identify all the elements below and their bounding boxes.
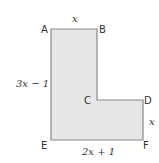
dimension-ae: 3x − 1 [16, 78, 49, 89]
dimension-df: x [149, 116, 155, 127]
dimension-ef: 2x + 1 [81, 146, 115, 157]
vertex-label-d: D [144, 95, 152, 106]
vertex-label-f: F [143, 140, 149, 151]
vertex-label-c: C [84, 95, 91, 106]
dimension-ab: x [72, 13, 78, 24]
l-shape-diagram: A B C D E F x 3x − 1 x 2x + 1 [0, 0, 159, 163]
vertex-label-e: E [41, 140, 47, 151]
l-shape-polygon [51, 29, 143, 140]
vertex-label-b: B [99, 24, 106, 35]
vertex-label-a: A [41, 24, 48, 35]
